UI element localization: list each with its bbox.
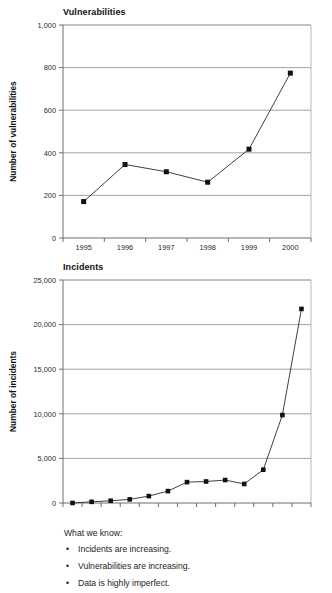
data-point-marker (223, 478, 228, 483)
y-tick-label: 15,000 (33, 365, 56, 374)
chart-incidents: Incidents 05,00010,00015,00020,00025,000… (0, 258, 332, 508)
y-tick-label: 25,000 (33, 276, 56, 285)
y-tick-label: 1,000 (38, 21, 57, 30)
note-item-text: Incidents are increasing. (78, 544, 171, 554)
data-point-marker (70, 501, 75, 506)
y-tick-label: 0 (52, 499, 56, 508)
data-point-marker (261, 467, 266, 472)
data-point-marker (299, 307, 304, 312)
note-item-text: Vulnerabilities are increasing. (78, 561, 190, 571)
incidents-plot: 05,00010,00015,00020,00025,0001988198919… (0, 258, 332, 508)
bullet-icon: • (66, 561, 69, 572)
data-point-marker (108, 498, 113, 503)
data-point-marker (127, 497, 132, 502)
chart-title-incidents: Incidents (63, 262, 103, 272)
x-tick-label: 2000 (282, 243, 298, 252)
data-point-marker (89, 500, 94, 505)
vulnerabilities-plot: 02004006008001,0001995199619971998199920… (0, 0, 332, 258)
notes-heading: What we know: (64, 528, 314, 538)
data-point-marker (123, 162, 128, 167)
data-point-marker (81, 199, 86, 204)
y-tick-label: 10,000 (33, 410, 56, 419)
chart-title-vulnerabilities: Vulnerabilities (63, 7, 126, 17)
y-axis-title: Number of vulnerabilities (8, 81, 18, 182)
notes-list: •Incidents are increasing.•Vulnerabiliti… (64, 544, 314, 589)
data-point-marker (166, 489, 171, 494)
y-tick-label: 600 (44, 106, 56, 115)
y-tick-label: 20,000 (33, 320, 56, 329)
data-point-marker (205, 180, 210, 185)
x-tick-label: 1996 (117, 243, 133, 252)
data-point-marker (147, 494, 152, 499)
y-tick-label: 800 (44, 63, 56, 72)
x-tick-label: 1998 (199, 243, 215, 252)
x-tick-label: 1995 (75, 243, 91, 252)
y-tick-label: 5,000 (38, 454, 57, 463)
bullet-icon: • (66, 544, 69, 555)
data-point-marker (164, 169, 169, 174)
notes-block: What we know: •Incidents are increasing.… (64, 528, 314, 593)
data-point-marker (204, 479, 209, 484)
data-point-marker (288, 71, 293, 76)
note-item-text: Data is highly imperfect. (78, 578, 170, 588)
series-line (84, 73, 291, 201)
note-item: •Incidents are increasing. (64, 544, 314, 555)
chart-vulnerabilities: Vulnerabilities 02004006008001,000199519… (0, 0, 332, 258)
y-tick-label: 0 (52, 234, 56, 243)
x-tick-label: 1999 (241, 243, 257, 252)
x-tick-label: 1997 (158, 243, 174, 252)
data-point-marker (185, 480, 190, 485)
series-line (73, 309, 302, 503)
note-item: •Vulnerabilities are increasing. (64, 561, 314, 572)
data-point-marker (280, 413, 285, 418)
data-point-marker (247, 147, 252, 152)
figure-page: Vulnerabilities 02004006008001,000199519… (0, 0, 332, 593)
note-item: •Data is highly imperfect. (64, 578, 314, 589)
y-tick-label: 200 (44, 191, 56, 200)
y-axis-title: Number of incidents (8, 351, 18, 432)
y-tick-label: 400 (44, 149, 56, 158)
data-point-marker (242, 482, 247, 487)
bullet-icon: • (66, 578, 69, 589)
